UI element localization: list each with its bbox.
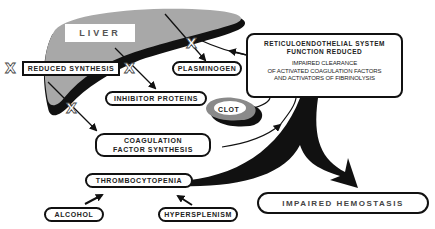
plasminogen-box: PLASMINOGEN (172, 61, 242, 76)
res-body-line1: IMPAIRED CLEARANCE (248, 60, 401, 68)
inhibitor-proteins-box: INHIBITOR PROTEINS (105, 91, 207, 106)
block-x-icon: X (186, 36, 197, 50)
res-body-line3: AND ACTIVATORS OF FIBRINOLYSIS (248, 75, 401, 83)
reduced-synthesis-box: REDUCED SYNTHESIS (22, 61, 120, 76)
block-x-icon: X (124, 61, 135, 75)
res-body-line2: OF ACTIVATED COAGULATION FACTORS (248, 68, 401, 76)
res-title: RETICULOENDOTHELIAL SYSTEM FUNCTION REDU… (248, 40, 401, 56)
res-title-line2: FUNCTION REDUCED (248, 48, 401, 56)
diagram-canvas: LIVER REDUCED SYNTHESIS X X X X PLASMINO… (0, 0, 435, 229)
block-x-icon: X (5, 61, 16, 75)
res-title-line1: RETICULOENDOTHELIAL SYSTEM (248, 40, 401, 48)
clot-label: CLOT (218, 106, 239, 113)
res-body: IMPAIRED CLEARANCE OF ACTIVATED COAGULAT… (248, 60, 401, 83)
impaired-hemostasis-box: IMPAIRED HEMOSTASIS (257, 192, 429, 214)
reticuloendothelial-box: RETICULOENDOTHELIAL SYSTEM FUNCTION REDU… (246, 33, 403, 98)
coagulation-factor-synthesis-box: COAGULATION FACTOR SYNTHESIS (95, 133, 211, 157)
alcohol-box: ALCOHOL (44, 207, 104, 222)
thrombocytopenia-box: THROMBOCYTOPENIA (85, 173, 193, 188)
liver-label: LIVER (65, 24, 135, 42)
block-x-icon: X (66, 101, 77, 115)
hypersplenism-box: HYPERSPLENISM (158, 207, 238, 222)
